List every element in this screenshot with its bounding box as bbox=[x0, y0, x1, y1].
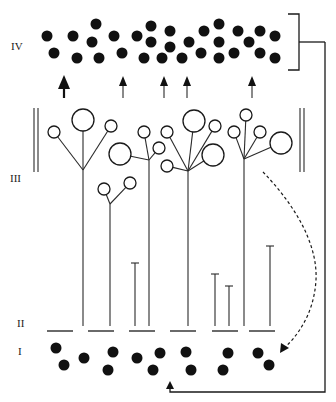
up-arrow-icon bbox=[119, 76, 127, 98]
dendrite-terminal bbox=[72, 109, 94, 131]
pyramidal-neurons bbox=[48, 109, 292, 326]
cell-dot bbox=[103, 365, 114, 376]
dendrite-terminal bbox=[48, 126, 60, 138]
dendrite bbox=[58, 137, 83, 170]
cell-dot bbox=[264, 360, 275, 371]
axon-terminal bbox=[266, 246, 274, 326]
cell-dot bbox=[255, 26, 266, 37]
dendrite bbox=[244, 121, 246, 159]
cell-dot bbox=[108, 347, 119, 358]
dendrite bbox=[131, 156, 149, 160]
dendrite-terminal bbox=[183, 110, 205, 132]
cell-dot bbox=[132, 353, 143, 364]
cell-dot bbox=[214, 37, 225, 48]
cell-dot bbox=[186, 365, 197, 376]
cell-dot bbox=[165, 26, 176, 37]
dendrite-terminal bbox=[270, 132, 292, 154]
dendrite-terminal bbox=[138, 126, 150, 138]
axon-terminal bbox=[131, 263, 139, 326]
cell-dot bbox=[87, 37, 98, 48]
cell-dot bbox=[68, 31, 79, 42]
dendrite bbox=[106, 195, 110, 204]
cell-dot bbox=[79, 353, 90, 364]
neuron bbox=[48, 109, 117, 326]
dendrite-terminal bbox=[202, 144, 224, 166]
cell-dot bbox=[177, 53, 188, 64]
cell-dot bbox=[223, 348, 234, 359]
cell-dot bbox=[146, 21, 157, 32]
cell-dot bbox=[196, 48, 207, 59]
cell-dot bbox=[218, 365, 229, 376]
cortical-layer-diagram: IVIIIIII bbox=[0, 0, 336, 402]
dashed-curve bbox=[263, 172, 316, 350]
dendrite bbox=[149, 153, 155, 160]
dashed-projection-arrow bbox=[263, 172, 316, 353]
dendrite bbox=[145, 138, 149, 160]
cell-dot bbox=[72, 53, 83, 64]
cell-dot bbox=[148, 365, 159, 376]
cell-dot bbox=[157, 53, 168, 64]
layer-iv-bracket bbox=[288, 14, 325, 70]
cell-dot bbox=[117, 48, 128, 59]
cell-dot bbox=[139, 53, 150, 64]
cell-dot bbox=[253, 348, 264, 359]
cell-dot bbox=[146, 37, 157, 48]
neuron bbox=[228, 109, 292, 326]
cell-dot bbox=[59, 360, 70, 371]
up-arrow-icon bbox=[248, 76, 256, 98]
layer-label: III bbox=[10, 172, 21, 184]
dendrite-terminal bbox=[109, 143, 131, 165]
arrow-head-icon bbox=[166, 381, 174, 389]
cell-dot bbox=[155, 348, 166, 359]
dendrite-terminal bbox=[161, 126, 173, 138]
bracket-line bbox=[288, 14, 299, 70]
cell-dot bbox=[165, 42, 176, 53]
layer-labels: IVIIIIII bbox=[10, 40, 25, 357]
neuron bbox=[109, 126, 165, 326]
up-arrow-icon bbox=[183, 76, 191, 98]
cell-dot bbox=[233, 26, 244, 37]
axon-terminals bbox=[131, 246, 274, 326]
layer-label: IV bbox=[11, 40, 23, 52]
upward-arrows bbox=[58, 75, 256, 98]
feedback-line bbox=[170, 42, 325, 392]
cell-dot bbox=[94, 53, 105, 64]
axon-terminal bbox=[211, 274, 219, 326]
cell-dot bbox=[255, 48, 266, 59]
dendrite-terminal bbox=[124, 177, 136, 189]
feedback-loop-arrow bbox=[166, 42, 325, 392]
cell-dot bbox=[214, 53, 225, 64]
cell-dot bbox=[229, 48, 240, 59]
up-arrow-icon bbox=[58, 75, 70, 98]
dendrite-terminal bbox=[209, 120, 221, 132]
dendrite-terminal bbox=[98, 183, 110, 195]
up-arrow-icon bbox=[160, 76, 168, 98]
cell-dot bbox=[42, 31, 53, 42]
cell-dot bbox=[184, 37, 195, 48]
cell-dot bbox=[91, 19, 102, 30]
cell-dot bbox=[270, 31, 281, 42]
dendrite-terminal bbox=[254, 126, 266, 138]
layer-iv-cells bbox=[42, 19, 281, 64]
cell-dot bbox=[109, 31, 120, 42]
dendrite bbox=[188, 161, 204, 171]
cell-dot bbox=[132, 31, 143, 42]
cell-dot bbox=[49, 48, 60, 59]
dendrite-terminal bbox=[161, 160, 173, 172]
cell-dot bbox=[181, 347, 192, 358]
dendrite-terminal bbox=[240, 109, 252, 121]
neuron bbox=[98, 177, 136, 326]
dendrite-terminal bbox=[153, 142, 165, 154]
dendrite bbox=[110, 187, 126, 204]
dendrite-terminal bbox=[228, 126, 240, 138]
dendrite bbox=[83, 131, 108, 170]
cell-dot bbox=[199, 26, 210, 37]
dendrite-terminal bbox=[105, 120, 117, 132]
axon-terminal bbox=[225, 286, 233, 326]
layer-label: II bbox=[17, 317, 25, 329]
cell-dot bbox=[214, 19, 225, 30]
cell-dot bbox=[270, 53, 281, 64]
cell-dot bbox=[51, 343, 62, 354]
layer-label: I bbox=[18, 345, 22, 357]
cell-dot bbox=[244, 37, 255, 48]
